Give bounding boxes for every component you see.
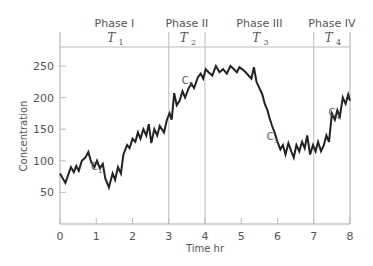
point-label: C [328,107,335,118]
phase-label: Phase IV [308,17,356,30]
point-label-subscript: 3 [274,137,278,145]
phase-label: Phase II [165,17,208,30]
x-tick-label: 1 [93,230,100,243]
x-axis-title: Time hr [185,243,225,254]
y-tick-label: 100 [33,155,54,168]
point-label: C [91,161,98,172]
phase-period-subscript: 4 [336,38,341,47]
x-tick-label: 4 [202,230,209,243]
phase-period-symbol: T [325,31,334,45]
concentration-chart: 01234567850100150200250 Phase IT1Phase I… [0,0,373,266]
x-tick-label: 7 [310,230,317,243]
point-label: C [182,75,189,86]
x-tick-label: 8 [347,230,354,243]
phase-period-subscript: 1 [118,38,123,47]
y-tick-label: 200 [33,92,54,105]
phase-period-symbol: T [252,31,261,45]
phase-label: Phase III [236,17,282,30]
x-tick-label: 5 [238,230,245,243]
y-tick-label: 150 [33,123,54,136]
x-tick-label: 2 [129,230,136,243]
annotations: C1C2C3C4 [91,75,340,175]
phase-period-symbol: T [107,31,116,45]
phase-regions: Phase IT1Phase IIT2Phase IIIT3Phase IVT4 [95,17,356,224]
point-label-subscript: 2 [189,81,193,89]
phase-period-subscript: 2 [191,38,196,47]
point-label-subscript: 1 [98,167,102,175]
point-label-subscript: 4 [335,113,340,121]
y-tick-label: 50 [40,186,54,199]
point-label: C [267,131,274,142]
y-axis-title: Concentration [18,101,29,172]
axes: 01234567850100150200250 [33,32,354,243]
phase-label: Phase I [95,17,135,30]
x-tick-label: 0 [57,230,64,243]
y-tick-label: 250 [33,60,54,73]
x-tick-label: 3 [165,230,172,243]
phase-period-symbol: T [180,31,189,45]
phase-period-subscript: 3 [263,38,268,47]
x-tick-label: 6 [274,230,281,243]
